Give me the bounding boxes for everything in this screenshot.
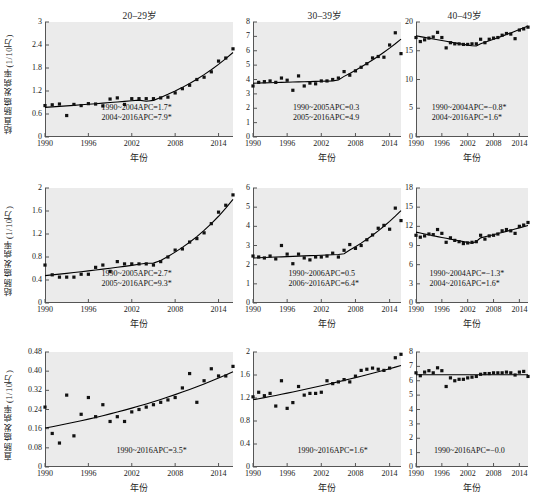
data-point <box>348 380 351 383</box>
data-point <box>123 262 126 265</box>
data-point <box>51 103 54 106</box>
data-point <box>432 233 435 236</box>
data-point <box>251 254 254 257</box>
apc-annotation-line: 2005~2016APC=4.9 <box>293 113 359 124</box>
data-point <box>166 255 169 258</box>
data-point <box>257 255 260 258</box>
data-point <box>354 247 357 250</box>
data-point <box>166 398 169 401</box>
data-point <box>526 375 529 378</box>
data-point <box>231 365 234 368</box>
data-point <box>87 102 90 105</box>
data-point <box>509 32 512 35</box>
y-tick-label: 15 <box>374 203 413 211</box>
x-tick-label: 2002 <box>305 470 337 478</box>
data-point <box>419 40 422 43</box>
data-point <box>466 241 469 244</box>
x-tick-label: 2014 <box>203 306 235 314</box>
data-point <box>414 234 417 237</box>
data-point <box>268 254 271 257</box>
apc-annotation-line: 2004~2016APC=1.6* <box>432 113 507 124</box>
x-tick-label: 2008 <box>159 140 191 148</box>
x-tick-label: 2008 <box>159 306 191 314</box>
data-point <box>483 372 486 375</box>
data-point <box>509 371 512 374</box>
x-tick-label: 2008 <box>339 470 371 478</box>
y-tick-label: 0.8 <box>211 417 250 425</box>
data-point <box>354 69 357 72</box>
x-axis-title: 年份 <box>416 481 528 494</box>
y-tick-label: 4 <box>211 222 250 230</box>
data-point <box>108 420 111 423</box>
apc-annotation: 1990~2016APC=−0.0 <box>434 446 505 457</box>
apc-annotation-line: 1990~2016APC=3.5* <box>116 446 186 457</box>
x-tick-label: 2002 <box>305 140 337 148</box>
data-point <box>174 396 177 399</box>
x-tick-label: 2014 <box>503 140 535 148</box>
data-point <box>331 252 334 255</box>
y-tick-label: 6 <box>211 47 250 55</box>
x-tick-label: 2002 <box>116 470 148 478</box>
data-point <box>522 27 525 30</box>
y-tick-label: 0.4 <box>211 440 250 448</box>
data-point <box>274 81 277 84</box>
data-point <box>488 372 491 375</box>
data-point <box>152 263 155 266</box>
y-tick-label: 0.48 <box>3 348 42 356</box>
data-point <box>87 396 90 399</box>
data-point <box>462 378 465 381</box>
y-tick-label: 8 <box>211 18 250 26</box>
y-tick-label: 2 <box>211 261 250 269</box>
data-point <box>337 255 340 258</box>
data-point <box>360 244 363 247</box>
data-point <box>58 102 61 105</box>
data-point <box>174 249 177 252</box>
x-tick-label: 1990 <box>29 306 61 314</box>
data-point <box>94 415 97 418</box>
data-point <box>314 255 317 258</box>
data-point <box>43 263 46 266</box>
data-point <box>130 97 133 100</box>
data-point <box>526 26 529 29</box>
data-point <box>308 392 311 395</box>
data-point <box>123 420 126 423</box>
data-point <box>449 41 452 44</box>
x-tick-label: 1996 <box>72 470 104 478</box>
data-point <box>457 378 460 381</box>
y-tick-label: 4 <box>374 406 413 414</box>
data-point <box>286 407 289 410</box>
apc-annotation-line: 2004~2016APC=1.6* <box>429 279 504 290</box>
data-point <box>195 237 198 240</box>
data-point <box>51 432 54 435</box>
data-point <box>297 253 300 256</box>
apc-annotation: 1990~2005APC=2.7*2005~2016APC=9.3* <box>101 269 171 291</box>
data-point <box>457 240 460 243</box>
chart-panel-r3c1: 1990~2016APC=3.5* <box>45 352 233 467</box>
data-point <box>188 84 191 87</box>
x-axis-title: 年份 <box>253 317 401 330</box>
y-tick-label: 1 <box>211 119 250 127</box>
apc-annotation: 1990~2016APC=1.6* <box>297 446 367 457</box>
x-tick-label: 1990 <box>29 470 61 478</box>
data-point <box>314 82 317 85</box>
data-point <box>43 406 46 409</box>
data-point <box>286 253 289 256</box>
y-tick-label: 0.8 <box>3 253 42 261</box>
data-point <box>87 273 90 276</box>
data-point <box>303 84 306 87</box>
data-point <box>145 262 148 265</box>
data-point <box>492 234 495 237</box>
y-tick-label: 5 <box>374 391 413 399</box>
data-point <box>65 276 68 279</box>
data-point <box>286 79 289 82</box>
x-tick-label: 2002 <box>305 306 337 314</box>
apc-annotation-line: 1990~2004APC=−1.3* <box>429 269 504 280</box>
data-point <box>453 42 456 45</box>
data-point <box>94 266 97 269</box>
data-point <box>432 35 435 38</box>
y-tick-label: 9 <box>374 242 413 250</box>
data-point <box>280 244 283 247</box>
data-point <box>492 371 495 374</box>
apc-annotation: 1990~2004APC=−0.8*2004~2016APC=1.6* <box>432 103 507 125</box>
y-tick-label: 7 <box>211 32 250 40</box>
